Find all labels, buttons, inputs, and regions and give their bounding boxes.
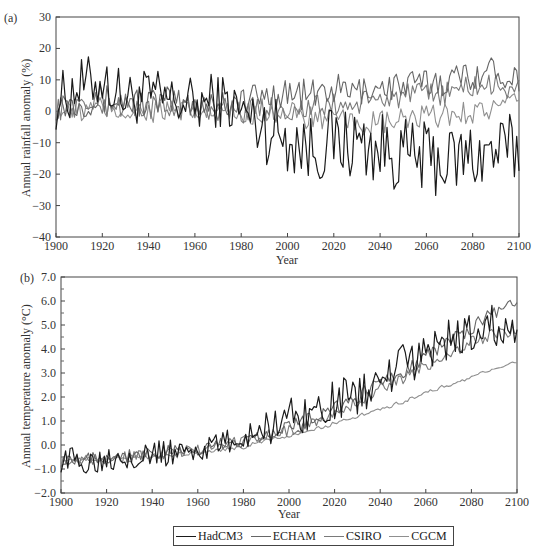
panel-b-label: (b) bbox=[20, 271, 34, 285]
legend-item-echam: ECHAM bbox=[251, 529, 316, 544]
legend-item-cgcm: CGCM bbox=[389, 529, 446, 544]
series-line-csiro bbox=[61, 325, 517, 468]
x-tick-label: 2000 bbox=[276, 239, 300, 253]
series-line-hadcm3 bbox=[61, 305, 517, 473]
legend-swatch-hadcm3 bbox=[176, 536, 196, 537]
panel-a-y-axis-label: Annual rainfall anomaly (%) bbox=[19, 59, 33, 197]
chart-legend: HadCM3 ECHAM CSIRO CGCM bbox=[173, 526, 454, 546]
panel-a-rainfall-chart: (a) −40−30−20−100102030 1900192019401960… bbox=[4, 10, 531, 267]
x-tick-label: 2080 bbox=[459, 495, 483, 509]
x-tick-label: 2100 bbox=[505, 495, 529, 509]
panel-a-x-axis-label: Year bbox=[276, 253, 298, 267]
legend-swatch-csiro bbox=[324, 536, 344, 537]
x-tick-label: 1980 bbox=[231, 495, 255, 509]
x-tick-label: 1960 bbox=[186, 495, 210, 509]
panel-a-label: (a) bbox=[4, 11, 17, 25]
x-tick-label: 1960 bbox=[183, 239, 207, 253]
panel-b-temperature-chart: (b) −2.0−1.00.01.02.03.04.05.06.07.0 190… bbox=[19, 270, 529, 521]
panel-a-x-ticks: 1900192019401960198020002020204020602080… bbox=[44, 233, 531, 253]
x-tick-label: 2040 bbox=[368, 495, 392, 509]
y-tick-label: 1.0 bbox=[41, 414, 56, 428]
x-tick-label: 2040 bbox=[368, 239, 392, 253]
y-tick-label: 30 bbox=[39, 10, 51, 24]
y-tick-label: −10 bbox=[32, 136, 51, 150]
y-tick-label: 4.0 bbox=[41, 342, 56, 356]
legend-swatch-echam bbox=[251, 536, 271, 537]
x-tick-label: 2020 bbox=[323, 495, 347, 509]
y-tick-label: 7.0 bbox=[41, 270, 56, 284]
panel-a-frame bbox=[56, 17, 519, 237]
panel-a-series bbox=[56, 57, 519, 196]
legend-label: HadCM3 bbox=[198, 529, 243, 544]
series-line-cgcm bbox=[61, 362, 517, 464]
y-tick-label: 10 bbox=[39, 73, 51, 87]
y-tick-label: 0.0 bbox=[41, 438, 56, 452]
y-tick-label: 0 bbox=[45, 104, 51, 118]
x-tick-label: 2080 bbox=[461, 239, 485, 253]
legend-label: CSIRO bbox=[346, 529, 381, 544]
x-tick-label: 1940 bbox=[140, 495, 164, 509]
y-tick-label: −20 bbox=[32, 167, 51, 181]
x-tick-label: 1900 bbox=[44, 239, 68, 253]
y-tick-label: 3.0 bbox=[41, 366, 56, 380]
y-tick-label: −1.0 bbox=[34, 462, 56, 476]
x-tick-label: 2060 bbox=[414, 239, 438, 253]
x-tick-label: 1940 bbox=[137, 239, 161, 253]
legend-item-hadcm3: HadCM3 bbox=[176, 529, 243, 544]
panel-b-series bbox=[61, 300, 517, 473]
panel-b-y-axis-label: Annual temperature anomaly (°C) bbox=[19, 304, 33, 468]
x-tick-label: 1920 bbox=[90, 239, 114, 253]
y-tick-label: 6.0 bbox=[41, 294, 56, 308]
x-tick-label: 2100 bbox=[507, 239, 531, 253]
y-tick-label: 5.0 bbox=[41, 318, 56, 332]
x-tick-label: 1900 bbox=[49, 495, 73, 509]
legend-item-csiro: CSIRO bbox=[324, 529, 381, 544]
x-tick-label: 1980 bbox=[229, 239, 253, 253]
panel-b-x-axis-label: Year bbox=[278, 507, 300, 521]
x-tick-label: 2020 bbox=[322, 239, 346, 253]
legend-swatch-cgcm bbox=[389, 536, 409, 537]
y-tick-label: 20 bbox=[39, 41, 51, 55]
y-tick-label: −30 bbox=[32, 199, 51, 213]
legend-label: CGCM bbox=[411, 529, 446, 544]
y-tick-label: 2.0 bbox=[41, 390, 56, 404]
figure: (a) −40−30−20−100102030 1900192019401960… bbox=[0, 0, 543, 558]
panel-b-y-ticks: −2.0−1.00.01.02.03.04.05.06.07.0 bbox=[34, 270, 65, 500]
x-tick-label: 2060 bbox=[414, 495, 438, 509]
panel-b-x-ticks: 1900192019401960198020002020204020602080… bbox=[49, 489, 529, 509]
series-line-echam bbox=[56, 58, 519, 121]
legend-label: ECHAM bbox=[273, 529, 316, 544]
x-tick-label: 1920 bbox=[95, 495, 119, 509]
